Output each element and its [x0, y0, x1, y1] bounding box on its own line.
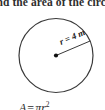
area-formula: A=πr2 [19, 99, 50, 110]
center-point-dot [54, 53, 58, 57]
figure-area: r = 4 m [0, 0, 105, 110]
formula-rhs-base: πr [35, 101, 46, 110]
formula-clip-container: A=πr2 [0, 99, 105, 110]
circle-svg: r = 4 m [0, 0, 105, 110]
formula-rhs-exponent: 2 [46, 100, 50, 109]
circle-area-diagram: Find the area of the circle. r = 4 m A=π… [0, 0, 105, 110]
formula-operator: = [26, 101, 35, 110]
